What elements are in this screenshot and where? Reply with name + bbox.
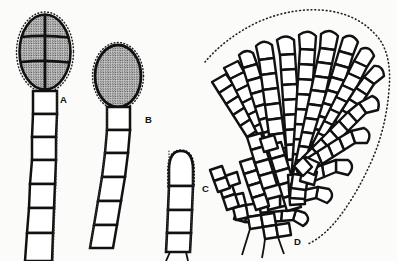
filament-c-cell-2: [167, 210, 192, 233]
filament-a-cell-1: [33, 91, 57, 114]
filament-a-cell-3: [32, 137, 56, 160]
filament-a-cell-2: [32, 114, 57, 137]
plate-drawing: [0, 0, 397, 261]
filament-a-cell-6: [27, 208, 54, 233]
filament-b-cell-2: [105, 130, 130, 153]
filament-b-cell-6: [90, 225, 117, 248]
panel-label-a: A: [60, 95, 67, 105]
panel-label-c: C: [202, 184, 209, 194]
filament-a-cell-5: [29, 184, 55, 208]
filament-c-cell-3: [166, 233, 191, 252]
panel-label-b: B: [145, 115, 152, 125]
panel-c-empty-terminal-cell: [166, 150, 194, 261]
illustration-plate: A B C D: [0, 0, 397, 261]
filament-b-cell-3: [102, 153, 128, 177]
filament-b-cell-1: [107, 107, 130, 130]
filament-a-cell-7: [25, 233, 53, 261]
panel-label-d: D: [294, 237, 301, 247]
filament-c-cell-1: [168, 186, 193, 210]
sporangium-b-body: [95, 45, 141, 107]
filament-b-cell-4: [98, 177, 125, 201]
filament-a-cell-4: [30, 160, 56, 184]
filament-c: [166, 186, 193, 252]
filament-b-cell-5: [94, 201, 121, 225]
terminal-cell-c-body: [169, 151, 193, 186]
